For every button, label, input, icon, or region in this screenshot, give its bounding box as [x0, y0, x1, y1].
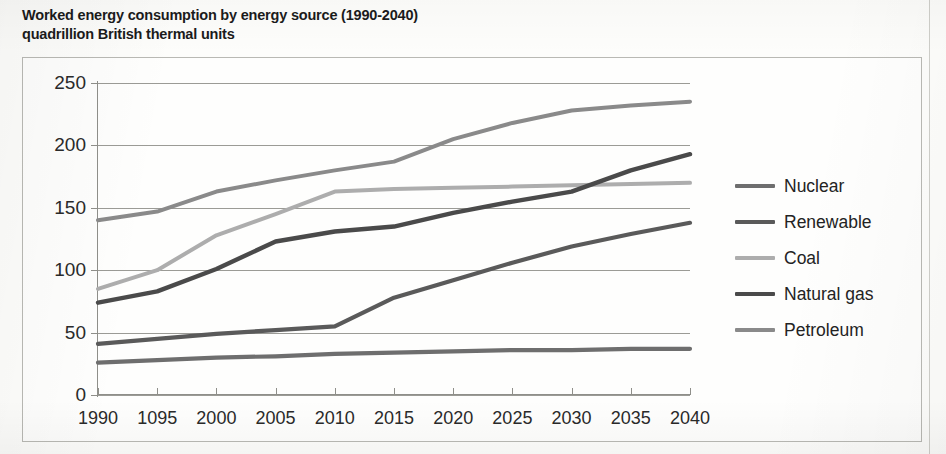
x-tick-label: 2010: [305, 408, 365, 429]
title-line-2: quadrillion British thermal units: [22, 25, 662, 44]
x-tick-label: 2015: [364, 408, 424, 429]
chart-series-plot: [98, 83, 690, 395]
x-tick-label: 2040: [660, 408, 720, 429]
legend-item-label: Petroleum: [784, 320, 864, 341]
x-tick-label: 2020: [423, 408, 483, 429]
y-axis-tick-labels: 050100150200250: [32, 0, 86, 454]
legend-item-nuclear[interactable]: Nuclear: [735, 168, 920, 204]
legend-swatch-icon: [735, 184, 775, 188]
legend-item-label: Renewable: [784, 212, 872, 233]
series-line-natural-gas: [98, 154, 690, 303]
y-tick-label: 150: [40, 197, 86, 219]
page-title: Worked energy consumption by energy sour…: [22, 6, 662, 44]
title-line-1: Worked energy consumption by energy sour…: [22, 6, 662, 25]
x-tick-label: 2025: [482, 408, 542, 429]
y-tick-label: 50: [40, 322, 86, 344]
series-line-petroleum: [98, 102, 690, 221]
x-tick-mark: [690, 388, 691, 395]
legend-swatch-icon: [735, 292, 775, 296]
series-line-renewable: [98, 223, 690, 344]
legend-swatch-icon: [735, 256, 775, 260]
legend-swatch-icon: [735, 328, 775, 332]
chart-legend: NuclearRenewableCoalNatural gasPetroleum: [735, 168, 920, 348]
legend-item-label: Coal: [784, 248, 820, 269]
legend-item-renewable[interactable]: Renewable: [735, 204, 920, 240]
series-line-nuclear: [98, 349, 690, 363]
x-tick-label: 2005: [246, 408, 306, 429]
legend-item-label: Natural gas: [784, 284, 874, 305]
x-tick-label: 2030: [542, 408, 602, 429]
y-tick-label: 100: [40, 259, 86, 281]
gridline: [98, 395, 690, 396]
x-tick-label: 2000: [186, 408, 246, 429]
legend-item-natural-gas[interactable]: Natural gas: [735, 276, 920, 312]
series-line-coal: [98, 183, 690, 289]
x-tick-label: 1095: [127, 408, 187, 429]
y-tick-label: 0: [40, 384, 86, 406]
y-tick-label: 200: [40, 134, 86, 156]
y-tick-label: 250: [40, 72, 86, 94]
legend-swatch-icon: [735, 220, 775, 224]
legend-item-coal[interactable]: Coal: [735, 240, 920, 276]
legend-item-petroleum[interactable]: Petroleum: [735, 312, 920, 348]
page-edge-line: [929, 0, 930, 454]
legend-item-label: Nuclear: [784, 176, 844, 197]
x-tick-label: 2035: [601, 408, 661, 429]
x-tick-label: 1990: [68, 408, 128, 429]
